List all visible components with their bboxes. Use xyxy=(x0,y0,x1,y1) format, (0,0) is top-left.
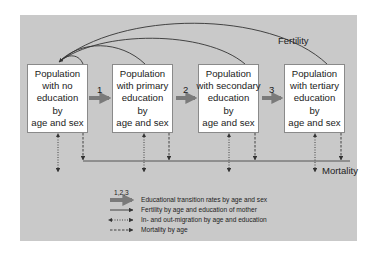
box-line: age and sex xyxy=(288,117,340,129)
box-line: education xyxy=(208,92,250,104)
box-line: Population xyxy=(292,68,337,80)
transition-label-3: 3 xyxy=(269,84,274,95)
legend-transition-numbers: 1,2,3 xyxy=(114,189,129,196)
transition-label-2: 2 xyxy=(183,84,188,95)
box-line: by xyxy=(52,105,62,117)
legend-item-fertility: Fertility by age and education of mother xyxy=(141,206,257,213)
legend-symbols xyxy=(110,200,133,230)
box-line: Population xyxy=(35,68,80,80)
fertility-label: Fertility xyxy=(278,35,309,46)
box-secondary-education: Population with secondary education by a… xyxy=(198,64,259,133)
box-line: age and sex xyxy=(31,117,83,129)
legend-item-migration: In- and out-migration by age and educati… xyxy=(141,216,267,223)
box-line: Population xyxy=(206,68,251,80)
box-tertiary-education: Population with tertiary education by ag… xyxy=(284,64,345,133)
box-line: with primary xyxy=(117,80,169,92)
box-line: education xyxy=(122,92,164,104)
box-line: education xyxy=(294,92,336,104)
migration-arrows xyxy=(58,137,315,172)
box-line: with tertiary xyxy=(290,80,339,92)
transition-label-1: 1 xyxy=(97,84,102,95)
box-line: with secondary xyxy=(197,80,261,92)
mortality-arrows xyxy=(83,133,341,160)
box-line: age and sex xyxy=(202,117,254,129)
box-no-education: Population with no education by age and … xyxy=(27,64,88,133)
box-line: with no xyxy=(42,80,72,92)
box-primary-education: Population with primary education by age… xyxy=(112,64,173,133)
box-line: age and sex xyxy=(116,117,168,129)
box-line: by xyxy=(223,105,233,117)
legend-item-mortality: Mortality by age xyxy=(141,226,188,233)
box-line: by xyxy=(309,105,319,117)
box-line: education xyxy=(37,92,79,104)
mortality-label: Mortality xyxy=(322,165,358,176)
legend-item-transition: Educational transition rates by age and … xyxy=(141,196,267,203)
box-line: Population xyxy=(120,68,165,80)
box-line: by xyxy=(137,105,147,117)
